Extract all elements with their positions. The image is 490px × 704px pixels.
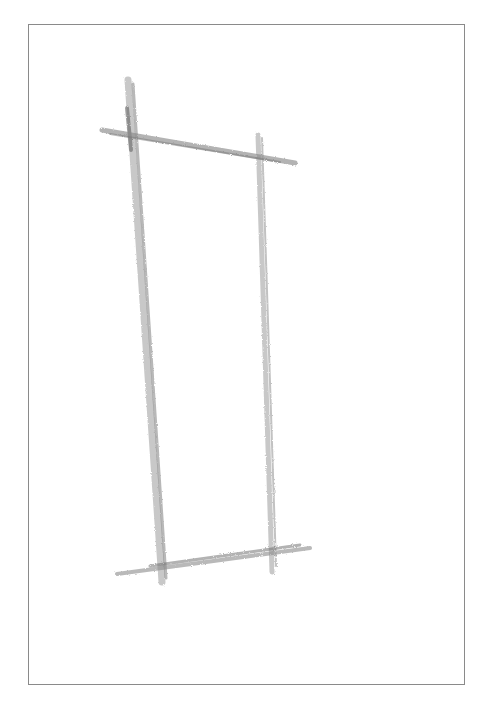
bottom-bar-line [117, 548, 310, 574]
left-post-line [128, 80, 162, 582]
left-post-line-b [133, 84, 166, 578]
pencil-sketch [0, 0, 490, 704]
bottom-bar-line-b [150, 545, 300, 566]
